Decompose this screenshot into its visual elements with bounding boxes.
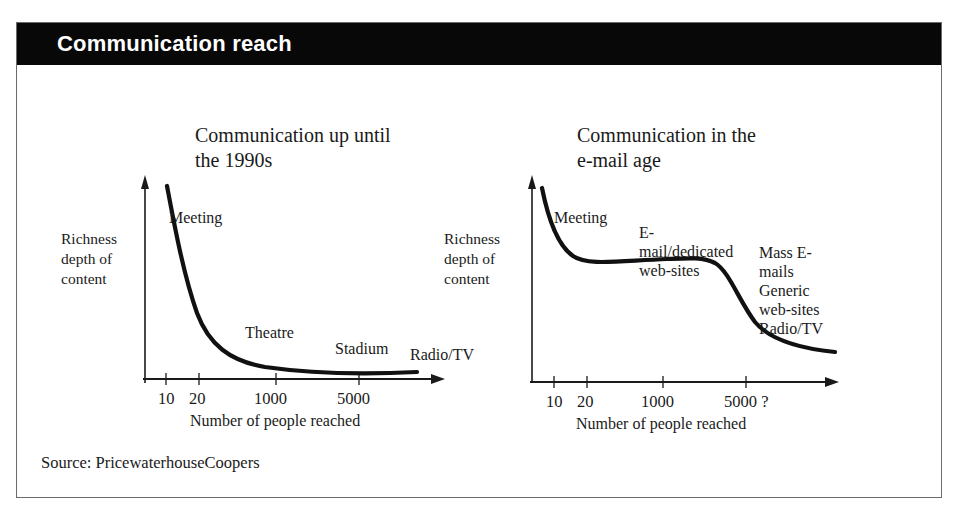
x-tick-right-1000: 1000 xyxy=(641,392,674,412)
x-axis-label-right: Number of people reached xyxy=(576,415,746,433)
annotation-mass-emails-generic-radio-tv: Mass E-mails Generic web-sites Radio/TV xyxy=(759,243,823,338)
annotation-email-dedicated-web-sites: E-mail/dedicated web-sites xyxy=(639,223,733,280)
x-tick-right-10: 10 xyxy=(546,392,563,412)
slide-canvas: Communication reach Communication up unt… xyxy=(0,0,960,518)
source-note: Source: PricewaterhouseCoopers xyxy=(41,453,260,473)
y-axis-right xyxy=(528,175,536,383)
x-axis-right xyxy=(530,377,839,387)
x-tick-right-20: 20 xyxy=(577,392,594,412)
x-tick-right-5000: 5000 ? xyxy=(724,392,768,412)
annotation-meeting-right: Meeting xyxy=(554,208,607,227)
slide-frame: Communication reach Communication up unt… xyxy=(16,22,942,498)
